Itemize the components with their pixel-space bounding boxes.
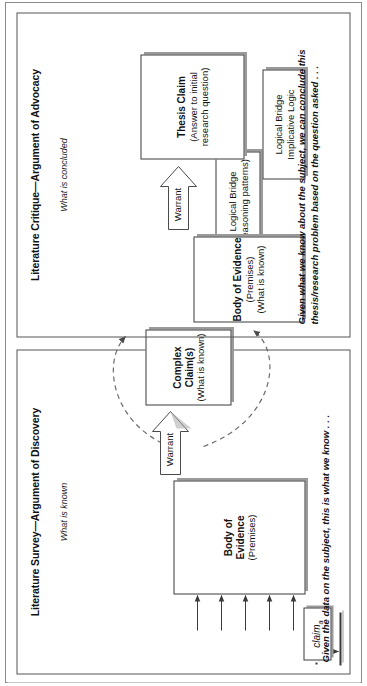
body-of-evidence-box-discovery: Body of Evidence (Premises): [173, 480, 305, 594]
evidence-sub1-advocacy: (Premises): [243, 256, 254, 302]
warrant-label-advocacy: Warrant: [159, 182, 193, 226]
figure-page: Literature Survey—Argument of Discovery …: [0, 0, 367, 686]
panel-subtitle-discovery: What is known: [58, 350, 68, 673]
evidence-title-advocacy: Body of Evidence: [231, 237, 243, 321]
thesis-claim-title: Thesis Claim: [175, 76, 187, 138]
evidence-title-discovery: Body of Evidence: [222, 515, 245, 559]
thesis-claim-sub2: research question): [198, 67, 209, 146]
complex-claim-sub: (What is known): [194, 333, 205, 401]
complex-claim-box: Complex Claim(s) (What is known): [145, 329, 231, 405]
complex-claim-title: Complex Claim(s): [171, 330, 194, 404]
footnote-discovery: Given the data on the subject, this is w…: [319, 362, 332, 662]
figure-stage: Literature Survey—Argument of Discovery …: [7, 4, 360, 682]
thesis-claim-sub1: (Answer to initial: [187, 72, 198, 142]
panel-title-discovery: Literature Survey—Argument of Discovery: [28, 350, 41, 673]
footnote-advocacy: Given what we know about the subject, we…: [295, 24, 320, 324]
claim-n-box: [339, 612, 341, 665]
thesis-claim-box: Thesis Claim (Answer to initial research…: [140, 54, 244, 159]
panel-title-advocacy: Literature Critique—Argument of Advocacy: [28, 13, 41, 336]
warrant-arrow-discovery: Warrant: [151, 409, 189, 475]
claim-n-box-main: [315, 662, 317, 664]
logical-bridge-title-advocacy: Logical Bridge: [272, 94, 284, 154]
evidence-sub2-advocacy: (What is known): [254, 245, 265, 313]
evidence-sub-discovery: (Premises): [245, 514, 256, 560]
logical-bridge-sub-advocacy: Implicative Logic: [284, 89, 296, 159]
warrant-arrow-advocacy: Warrant: [159, 164, 197, 230]
body-of-evidence-box-advocacy: Body of Evidence (Premises) (What is kno…: [193, 236, 303, 322]
panel-subtitle-advocacy: What is concluded: [58, 13, 68, 336]
warrant-label-discovery: Warrant: [151, 427, 185, 471]
